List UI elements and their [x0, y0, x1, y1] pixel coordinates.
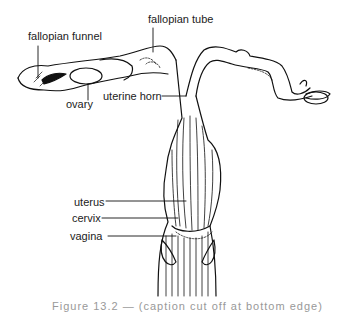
uterus-drawing: [158, 60, 221, 296]
label-uterine-horn: uterine horn: [103, 90, 162, 102]
label-cervix: cervix: [72, 212, 101, 224]
figure-caption: Figure 13.2 — (caption cut off at bottom…: [52, 300, 323, 312]
label-ovary: ovary: [66, 98, 93, 110]
label-fallopian-tube: fallopian tube: [148, 13, 213, 25]
label-fallopian-funnel: fallopian funnel: [28, 30, 102, 42]
label-uterus: uterus: [74, 196, 105, 208]
label-vagina: vagina: [70, 230, 102, 242]
right-horn-drawing: [186, 47, 330, 104]
left-horn-drawing: [18, 46, 176, 91]
